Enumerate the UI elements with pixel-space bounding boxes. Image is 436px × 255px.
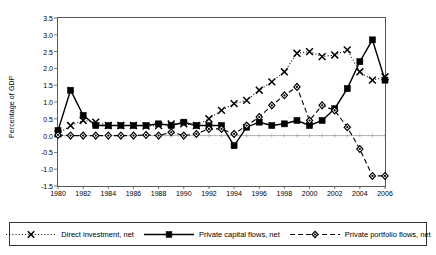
y-axis-title: Percentage of GDP <box>4 52 18 162</box>
y-axis-tick-label: 1.5 <box>43 82 53 89</box>
solid-square-key-icon <box>143 229 195 240</box>
y-axis-tick-label: 0.0 <box>43 132 53 139</box>
y-axis-tick-label: -1.5 <box>41 183 53 190</box>
x-axis-tick-label: 1984 <box>101 190 117 198</box>
legend-label: Private capital flows, net <box>199 230 280 239</box>
y-axis-tick-label: 0.5 <box>43 115 53 122</box>
chart-legend: Direct investment, net Private capital f… <box>9 222 427 246</box>
y-axis-tick-label: -0.5 <box>41 149 53 156</box>
legend-item-private-capital-flows: Private capital flows, net <box>143 229 280 240</box>
legend-item-direct-investment: Direct investment, net <box>5 229 134 240</box>
legend-label: Direct investment, net <box>61 230 134 239</box>
x-axis-tick-label: 2006 <box>377 190 393 198</box>
legend-label: Private portfolio flows, net <box>345 230 431 239</box>
x-axis-tick-label: 1982 <box>75 190 91 198</box>
x-axis-tick-label: 1988 <box>151 190 167 198</box>
x-axis-tick-label: 1994 <box>226 190 242 198</box>
y-axis-tick-label: 1.0 <box>43 99 53 106</box>
dashed-diamond-key-icon <box>289 229 341 240</box>
y-axis-tick-label: 3.5 <box>43 15 53 22</box>
x-axis-tick-label: 1990 <box>176 190 192 198</box>
x-axis-tick-label: 2002 <box>327 190 343 198</box>
x-axis-tick-label: 2004 <box>352 190 368 198</box>
x-axis-tick-label: 1998 <box>277 190 293 198</box>
plot-area <box>57 17 386 187</box>
x-axis-tick-labels: 1980198219841986198819901992199419961998… <box>57 190 386 204</box>
y-axis-tick-label: 3.0 <box>43 31 53 38</box>
dotted-x-key-icon <box>5 229 57 240</box>
y-axis-tick-label: 2.0 <box>43 65 53 72</box>
x-axis-tick-label: 1992 <box>201 190 217 198</box>
chart-area: Percentage of GDP 3.53.02.52.01.51.00.50… <box>0 0 436 210</box>
x-axis-tick-label: 1980 <box>50 190 66 198</box>
y-axis-tick-labels: 3.53.02.52.01.51.00.50.0-0.5-1.0-1.5 <box>18 13 56 188</box>
x-axis-tick-label: 1986 <box>126 190 142 198</box>
x-axis-tick-label: 1996 <box>251 190 267 198</box>
y-axis-tick-label: -1.0 <box>41 166 53 173</box>
legend-item-private-portfolio-flows: Private portfolio flows, net <box>289 229 431 240</box>
y-axis-tick-label: 2.5 <box>43 48 53 55</box>
x-axis-tick-label: 2000 <box>302 190 318 198</box>
figure: Percentage of GDP 3.53.02.52.01.51.00.50… <box>0 0 436 255</box>
